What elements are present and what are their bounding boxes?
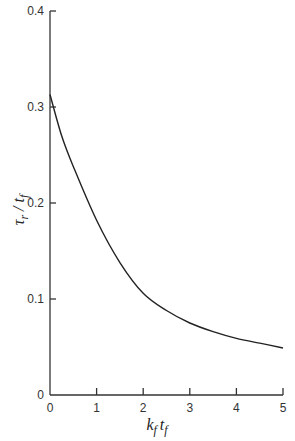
y-tick-label: 0.3	[27, 100, 44, 114]
y-tick-label: 0.1	[27, 292, 44, 306]
y-tick-label: 0.4	[27, 4, 44, 18]
x-axis-label: kftf	[146, 416, 169, 437]
x-tick-label: 2	[140, 401, 147, 415]
x-tick-label: 0	[47, 401, 54, 415]
y-tick-label: 0	[37, 388, 44, 402]
axes	[50, 11, 283, 395]
x-tick-label: 5	[280, 401, 287, 415]
data-curve	[50, 95, 283, 348]
chart: 00.10.20.30.4012345 kftf τr / tf	[0, 0, 295, 441]
x-tick-label: 1	[93, 401, 100, 415]
tick-labels: 00.10.20.30.4012345	[27, 4, 286, 415]
x-tick-label: 3	[186, 401, 193, 415]
x-tick-label: 4	[233, 401, 240, 415]
